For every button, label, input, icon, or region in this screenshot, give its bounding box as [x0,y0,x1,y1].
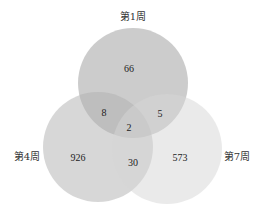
set-label-week1: 第1周 [120,10,146,22]
set-circle-week7 [112,94,222,204]
set-label-week4: 第4周 [14,150,40,162]
region-week1-week4: 8 [102,107,107,118]
region-only-week4: 926 [71,152,86,163]
region-only-week1: 66 [124,63,134,74]
venn-diagram: 第1周 第4周 第7周 66 926 573 8 5 30 2 [0,0,265,219]
region-only-week7: 573 [173,152,188,163]
region-week4-week7: 30 [128,157,138,168]
set-label-week7: 第7周 [224,150,250,162]
region-all-three: 2 [127,122,132,133]
region-week1-week7: 5 [158,108,163,119]
